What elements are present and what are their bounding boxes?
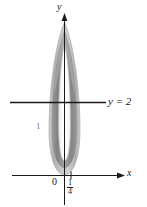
x-axis-label: x bbox=[127, 168, 131, 178]
x-axis-arrow-icon bbox=[117, 173, 125, 179]
quarter-denominator: 4 bbox=[67, 188, 73, 196]
origin-label: 0 bbox=[52, 177, 57, 187]
x-tick-quarter-label: 1 4 bbox=[67, 179, 73, 197]
interior-mark-label: 1 bbox=[36, 122, 41, 131]
line-equation-label: y = 2 bbox=[108, 96, 131, 107]
solid-of-revolution-figure: y x 0 y = 2 1 1 4 bbox=[0, 0, 147, 207]
y-axis-arrow-icon bbox=[62, 13, 68, 21]
y-axis-label: y bbox=[57, 2, 61, 12]
